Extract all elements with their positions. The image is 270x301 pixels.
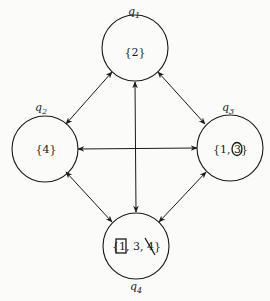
node-q3-set: {1, 3} — [213, 143, 248, 156]
edge-q2-q3 — [78, 148, 197, 149]
node-q1-set: {2} — [125, 46, 146, 59]
edge-q1-q4 — [135, 82, 136, 212]
node-q4-set: {1, 3, 4} — [112, 240, 161, 253]
node-q3-label: q3 — [222, 101, 234, 116]
edge-q2-q4 — [66, 172, 112, 222]
node-q2-label: q2 — [35, 101, 47, 116]
node-q3: q3 {1, 3} — [197, 101, 263, 181]
edge-q1-q2 — [66, 72, 112, 124]
node-q1-label: q1 — [128, 5, 140, 20]
edge-q3-q4 — [159, 172, 206, 222]
edge-q1-q3 — [158, 72, 205, 124]
edges — [66, 72, 206, 222]
node-q2: q2 {4} — [12, 101, 78, 182]
node-q4: q4 {1, 3, 4} — [103, 213, 169, 295]
node-q2-set: {4} — [36, 143, 57, 156]
diagram-canvas: q1 {2} q2 {4} q3 {1, 3} q4 {1, 3, 4} — [0, 0, 270, 301]
node-q4-label: q4 — [130, 280, 142, 295]
node-q1: q1 {2} — [102, 5, 168, 81]
boxed-element-1: 1 — [119, 240, 126, 253]
